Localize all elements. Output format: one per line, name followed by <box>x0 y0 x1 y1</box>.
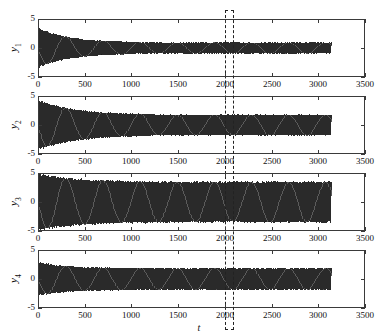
x-tick-mark <box>272 19 273 23</box>
x-tick-mark <box>131 250 132 254</box>
x-tick-mark <box>178 73 179 77</box>
x-tick-label: 0 <box>21 310 55 320</box>
x-tick-mark <box>178 173 179 177</box>
x-tick-label: 3000 <box>301 233 335 243</box>
y-axis-label-text: y <box>7 124 19 129</box>
x-tick-mark <box>272 96 273 100</box>
x-axis-label: t <box>198 322 201 333</box>
x-tick-mark <box>365 150 366 154</box>
y-axis-label-text: y <box>7 201 19 206</box>
x-tick-label: 0 <box>21 156 55 166</box>
x-tick-mark <box>225 250 226 254</box>
x-tick-mark <box>272 250 273 254</box>
x-tick-label: 1500 <box>161 233 195 243</box>
y-tick-mark <box>361 308 365 309</box>
y-axis-label-text: y <box>7 278 19 283</box>
x-tick-label: 1000 <box>114 156 148 166</box>
x-tick-mark <box>38 250 39 254</box>
x-tick-label: 500 <box>68 310 102 320</box>
x-tick-label: 500 <box>68 79 102 89</box>
x-tick-mark <box>365 304 366 308</box>
x-tick-mark <box>272 173 273 177</box>
x-tick-label: 2000 <box>208 156 242 166</box>
x-tick-mark <box>318 19 319 23</box>
x-tick-mark <box>365 19 366 23</box>
y-tick-mark <box>38 125 42 126</box>
x-tick-label: 1000 <box>114 233 148 243</box>
x-tick-mark <box>225 227 226 231</box>
x-tick-mark <box>38 173 39 177</box>
x-tick-mark <box>318 250 319 254</box>
y-tick-mark <box>361 202 365 203</box>
x-tick-mark <box>38 227 39 231</box>
x-tick-label: 1000 <box>114 310 148 320</box>
y-tick-mark <box>38 202 42 203</box>
x-tick-mark <box>318 73 319 77</box>
signal-trace-y1 <box>39 20 364 76</box>
y-tick-mark <box>38 279 42 280</box>
x-tick-mark <box>85 250 86 254</box>
x-tick-label: 1000 <box>114 79 148 89</box>
x-tick-mark <box>272 73 273 77</box>
figure-four-timeseries-subplots: y1 y2 y3 y4 t 50-50500100015002000250030… <box>0 0 386 334</box>
x-tick-mark <box>85 19 86 23</box>
x-tick-label: 0 <box>21 233 55 243</box>
x-tick-mark <box>225 173 226 177</box>
y-tick-mark <box>38 154 42 155</box>
x-tick-mark <box>178 227 179 231</box>
x-tick-label: 3500 <box>348 156 382 166</box>
y-tick-mark <box>361 125 365 126</box>
x-tick-mark <box>225 96 226 100</box>
x-tick-label: 2000 <box>208 233 242 243</box>
y-tick-label: 0 <box>19 273 35 283</box>
x-tick-mark <box>365 96 366 100</box>
x-tick-mark <box>365 173 366 177</box>
x-tick-label: 2000 <box>208 310 242 320</box>
x-tick-mark <box>365 250 366 254</box>
signal-trace-y4 <box>39 251 364 307</box>
y-tick-label: 0 <box>19 42 35 52</box>
y-tick-label: 5 <box>19 167 35 177</box>
x-tick-mark <box>178 19 179 23</box>
x-tick-label: 3000 <box>301 79 335 89</box>
x-tick-mark <box>131 227 132 231</box>
x-tick-mark <box>178 304 179 308</box>
x-tick-mark <box>365 73 366 77</box>
x-tick-label: 3000 <box>301 156 335 166</box>
x-tick-mark <box>38 19 39 23</box>
y-tick-mark <box>361 48 365 49</box>
x-tick-label: 2500 <box>255 233 289 243</box>
x-tick-mark <box>38 150 39 154</box>
x-tick-mark <box>131 150 132 154</box>
x-tick-mark <box>131 173 132 177</box>
y-tick-label: 5 <box>19 13 35 23</box>
x-tick-mark <box>131 96 132 100</box>
x-tick-label: 1500 <box>161 79 195 89</box>
x-tick-mark <box>318 173 319 177</box>
y-tick-mark <box>38 308 42 309</box>
signal-trace-y2 <box>39 97 364 153</box>
x-tick-mark <box>85 73 86 77</box>
y-tick-mark <box>38 231 42 232</box>
x-tick-label: 2500 <box>255 156 289 166</box>
y-tick-label: 0 <box>19 119 35 129</box>
x-tick-mark <box>225 150 226 154</box>
x-tick-label: 3500 <box>348 79 382 89</box>
x-tick-label: 2500 <box>255 310 289 320</box>
y-tick-mark <box>361 231 365 232</box>
x-tick-mark <box>178 150 179 154</box>
y-tick-label: 5 <box>19 244 35 254</box>
y-axis-label-text: y <box>7 47 19 52</box>
x-tick-mark <box>272 227 273 231</box>
x-tick-mark <box>225 73 226 77</box>
x-tick-mark <box>85 173 86 177</box>
x-tick-mark <box>272 304 273 308</box>
x-tick-label: 0 <box>21 79 55 89</box>
x-tick-label: 500 <box>68 156 102 166</box>
x-tick-mark <box>318 304 319 308</box>
y-tick-label: 5 <box>19 90 35 100</box>
x-tick-mark <box>131 304 132 308</box>
y-tick-label: 0 <box>19 196 35 206</box>
x-tick-mark <box>85 150 86 154</box>
x-tick-mark <box>131 19 132 23</box>
